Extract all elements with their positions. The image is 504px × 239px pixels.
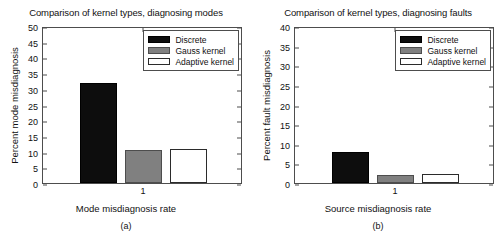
y-tick-mark-b-10 xyxy=(295,145,299,146)
legend-item-b-adaptive: Adaptive kernel xyxy=(400,56,486,67)
y-tick-mark-b-30 xyxy=(295,67,299,68)
y-tick-mark-right-b-0 xyxy=(489,185,493,186)
y-tick-mark-b-25 xyxy=(295,86,299,87)
legend-swatch-gauss-icon xyxy=(148,47,170,54)
y-tick-label-a-20: 20 xyxy=(28,117,43,127)
y-tick-mark-a-10 xyxy=(43,153,47,154)
y-tick-mark-b-35 xyxy=(295,47,299,48)
y-tick-mark-a-5 xyxy=(43,169,47,170)
y-tick-label-b-30: 30 xyxy=(280,62,295,72)
legend-label-adaptive: Adaptive kernel xyxy=(175,57,234,67)
y-tick-mark-b-15 xyxy=(295,126,299,127)
y-tick-label-b-20: 20 xyxy=(280,102,295,112)
y-tick-label-a-30: 30 xyxy=(28,86,43,96)
y-tick-mark-right-a-20 xyxy=(237,122,241,123)
legend-swatch-discrete-icon xyxy=(400,36,422,43)
legend-b: DiscreteGauss kernelAdaptive kernel xyxy=(395,30,491,71)
bar-a-gauss-kernel xyxy=(125,150,162,183)
x-axis-label-a: Mode misdiagnosis rate xyxy=(0,203,252,214)
x-tick-label-a: 1 xyxy=(140,186,145,196)
y-tick-mark-a-0 xyxy=(43,185,47,186)
x-tick-label-b: 1 xyxy=(392,186,397,196)
y-tick-mark-a-50 xyxy=(43,28,47,29)
figure-two-panel-bar-charts: Comparison of kernel types, diagnosing m… xyxy=(0,0,504,239)
legend-item-a-gauss: Gauss kernel xyxy=(148,45,234,56)
y-tick-label-a-5: 5 xyxy=(33,164,43,174)
y-tick-mark-right-a-5 xyxy=(237,169,241,170)
y-tick-label-a-15: 15 xyxy=(28,133,43,143)
y-tick-mark-right-b-20 xyxy=(489,106,493,107)
y-tick-mark-right-a-30 xyxy=(237,90,241,91)
y-tick-mark-a-25 xyxy=(43,106,47,107)
y-tick-mark-right-b-5 xyxy=(489,165,493,166)
y-tick-label-b-40: 40 xyxy=(280,23,295,33)
y-tick-mark-a-45 xyxy=(43,43,47,44)
y-axis-label-b: Percent fault misdiagnosis xyxy=(259,27,273,184)
y-tick-mark-right-b-10 xyxy=(489,145,493,146)
legend-item-a-discrete: Discrete xyxy=(148,34,234,45)
y-tick-label-a-25: 25 xyxy=(28,102,43,112)
y-tick-mark-a-15 xyxy=(43,137,47,138)
y-tick-mark-right-a-10 xyxy=(237,153,241,154)
legend-item-b-gauss: Gauss kernel xyxy=(400,45,486,56)
y-tick-mark-b-40 xyxy=(295,28,299,29)
y-tick-label-a-35: 35 xyxy=(28,70,43,80)
legend-swatch-discrete-icon xyxy=(148,36,170,43)
subcaption-b: (b) xyxy=(252,221,504,231)
plot-area-b: 05101520253035401DiscreteGauss kernelAda… xyxy=(294,27,494,184)
y-tick-mark-a-40 xyxy=(43,59,47,60)
y-tick-label-a-45: 45 xyxy=(28,39,43,49)
y-tick-label-b-25: 25 xyxy=(280,82,295,92)
y-tick-mark-right-b-25 xyxy=(489,86,493,87)
y-tick-label-a-0: 0 xyxy=(33,180,43,190)
y-tick-mark-right-a-35 xyxy=(237,75,241,76)
legend-label-discrete: Discrete xyxy=(427,35,458,45)
y-tick-mark-right-a-0 xyxy=(237,185,241,186)
bar-b-discrete xyxy=(332,152,369,183)
y-tick-label-b-15: 15 xyxy=(280,121,295,131)
y-tick-label-b-10: 10 xyxy=(280,141,295,151)
legend-swatch-adaptive-icon xyxy=(148,58,170,65)
y-tick-mark-right-a-15 xyxy=(237,137,241,138)
legend-swatch-adaptive-icon xyxy=(400,58,422,65)
y-tick-mark-a-30 xyxy=(43,90,47,91)
legend-item-b-discrete: Discrete xyxy=(400,34,486,45)
y-tick-mark-b-0 xyxy=(295,185,299,186)
y-axis-label-a-text: Percent mode misdiagnosis xyxy=(9,47,20,164)
legend-swatch-gauss-icon xyxy=(400,47,422,54)
y-tick-mark-right-b-40 xyxy=(489,28,493,29)
bar-b-adaptive-kernel xyxy=(422,174,459,183)
subcaption-a: (a) xyxy=(0,221,252,231)
y-axis-label-a: Percent mode misdiagnosis xyxy=(7,27,21,184)
y-tick-label-a-50: 50 xyxy=(28,23,43,33)
bar-b-gauss-kernel xyxy=(377,175,414,183)
y-tick-mark-a-35 xyxy=(43,75,47,76)
legend-a: DiscreteGauss kernelAdaptive kernel xyxy=(143,30,239,71)
y-tick-label-b-0: 0 xyxy=(285,180,295,190)
plot-area-a: 051015202530354045501DiscreteGauss kerne… xyxy=(42,27,242,184)
y-tick-mark-right-a-50 xyxy=(237,28,241,29)
y-tick-label-a-10: 10 xyxy=(28,149,43,159)
panel-b: Comparison of kernel types, diagnosing f… xyxy=(252,0,504,239)
x-axis-label-b: Source misdiagnosis rate xyxy=(252,203,504,214)
legend-label-adaptive: Adaptive kernel xyxy=(427,57,486,67)
y-tick-mark-b-5 xyxy=(295,165,299,166)
legend-label-discrete: Discrete xyxy=(175,35,206,45)
panel-a: Comparison of kernel types, diagnosing m… xyxy=(0,0,252,239)
y-tick-label-b-35: 35 xyxy=(280,43,295,53)
y-tick-label-b-5: 5 xyxy=(285,160,295,170)
y-tick-mark-right-b-15 xyxy=(489,126,493,127)
legend-label-gauss: Gauss kernel xyxy=(427,46,477,56)
y-tick-label-a-40: 40 xyxy=(28,54,43,64)
chart-title-a: Comparison of kernel types, diagnosing m… xyxy=(0,7,252,18)
y-tick-mark-b-20 xyxy=(295,106,299,107)
y-axis-label-b-text: Percent fault misdiagnosis xyxy=(261,50,272,161)
bar-a-discrete xyxy=(80,83,117,183)
bar-a-adaptive-kernel xyxy=(170,149,207,183)
y-tick-mark-right-a-25 xyxy=(237,106,241,107)
legend-label-gauss: Gauss kernel xyxy=(175,46,225,56)
chart-title-b: Comparison of kernel types, diagnosing f… xyxy=(252,7,504,18)
legend-item-a-adaptive: Adaptive kernel xyxy=(148,56,234,67)
y-tick-mark-a-20 xyxy=(43,122,47,123)
